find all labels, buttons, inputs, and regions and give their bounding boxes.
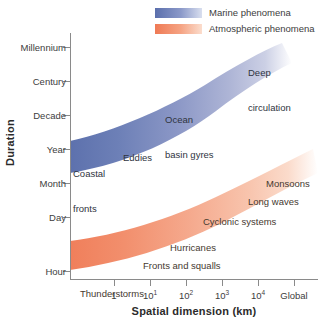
plot-area: Millennium Century Decade Year Month Day…: [70, 33, 318, 280]
phenomena-bands: [70, 33, 318, 280]
x-tick-10e3: [222, 280, 223, 286]
legend-label-marine: Marine phenomena: [209, 7, 291, 18]
x-tick-label-10e2: 102: [179, 290, 193, 301]
x-tick-global: [294, 280, 295, 286]
x-tick-label-10e4: 104: [251, 290, 265, 301]
y-tick-label-year: Year: [47, 144, 66, 155]
y-tick-label-decade: Decade: [33, 110, 66, 121]
x-tick-label-global: Global: [280, 290, 307, 301]
x-tick-10e1: [150, 280, 151, 286]
y-tick-label-millennium: Millennium: [21, 42, 66, 53]
x-tick-1: [114, 280, 115, 286]
y-axis-title: Duration: [4, 119, 16, 166]
chart-legend: Marine phenomena Atmospheric phenomena: [155, 6, 315, 35]
x-tick-10e4: [258, 280, 259, 286]
y-tick-label-hour: Hour: [45, 266, 66, 277]
x-tick-label-10e3: 103: [215, 290, 229, 301]
y-tick-label-century: Century: [33, 76, 66, 87]
x-tick-label-1: 1: [111, 290, 116, 301]
y-tick-label-day: Day: [49, 212, 66, 223]
y-axis-line: [70, 33, 71, 280]
x-axis-line: [70, 279, 318, 280]
x-axis-title: Spatial dimension (km): [70, 305, 318, 317]
legend-item-marine: Marine phenomena: [155, 6, 315, 19]
marine-band: [70, 43, 292, 173]
space-time-phenomena-chart: Marine phenomena Atmospheric phenomena D…: [0, 0, 326, 326]
y-tick-label-month: Month: [40, 178, 66, 189]
x-tick-10e2: [186, 280, 187, 286]
x-tick-label-10e1: 101: [143, 290, 157, 301]
legend-swatch-atmospheric-icon: [155, 24, 202, 34]
atmospheric-band: [70, 149, 318, 270]
legend-swatch-marine-icon: [155, 8, 202, 18]
